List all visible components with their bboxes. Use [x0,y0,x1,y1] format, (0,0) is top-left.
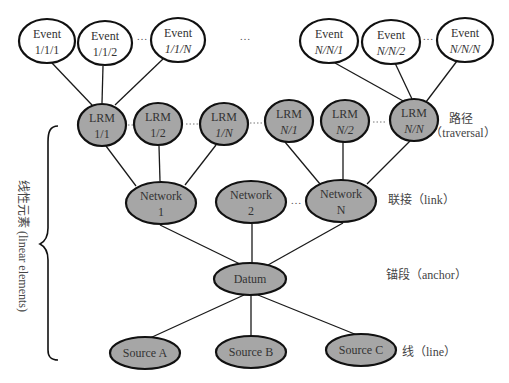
svg-text:N/2: N/2 [335,123,353,137]
svg-text:…: … [240,30,251,42]
svg-text:Datum: Datum [234,272,267,286]
svg-text:N/N/2: N/N/2 [376,44,406,58]
svg-text:LRM: LRM [89,111,115,125]
lrm-node-3: LRM 1/N [200,103,248,145]
svg-text:…: … [291,194,302,206]
source-node-c: Source C [326,334,396,366]
level-label-traversal-en: （traversal） [430,126,495,140]
level-label-traversal-cn: 路径 [449,111,473,126]
svg-text:1/1/1: 1/1/1 [35,43,60,57]
svg-text:Source A: Source A [123,346,168,360]
lrm-node-4: LRM N/1 [265,100,313,142]
svg-text:LRM: LRM [211,110,237,124]
svg-text:N/1: N/1 [279,123,297,137]
svg-text:LRM: LRM [276,107,302,121]
curly-brace [40,126,58,360]
lrm-node-2: LRM 1/2 [134,103,182,145]
svg-text:N/N: N/N [403,122,424,136]
svg-text:Event: Event [164,26,193,40]
svg-text:Event: Event [91,29,120,43]
svg-text:Source B: Source B [229,345,273,359]
svg-text:2: 2 [248,204,254,218]
svg-text:1/1: 1/1 [94,127,109,141]
svg-text:LRM: LRM [332,107,358,121]
svg-text:1/2: 1/2 [150,126,165,140]
lrm-node-1: LRM 1/1 [78,104,126,146]
svg-text:Network: Network [320,187,362,201]
svg-text:Network: Network [140,189,182,203]
datum-node: Datum [214,263,286,295]
svg-text:Event: Event [33,27,62,41]
level-label-link: 联接（link） [388,192,455,207]
svg-text:Source C: Source C [339,343,383,357]
event-node-3: Event 1/1/N [151,18,205,62]
source-node-a: Source A [110,337,180,369]
event-node-1: Event 1/1/1 [19,19,75,63]
diagram-canvas: … … … … Event 1/1/1 Event 1/1/2 Event 1/… [0,0,509,383]
event-node-2: Event 1/1/2 [78,21,132,65]
svg-text:N/N/1: N/N/1 [314,43,344,57]
brace-label: 线性元素 (linear elements) [16,180,30,312]
level-label-anchor: 锚段（anchor） [386,267,467,282]
svg-text:Event: Event [315,27,344,41]
svg-text:LRM: LRM [401,106,427,120]
level-label-line: 线（line） [402,345,456,359]
svg-text:…: … [137,30,148,42]
svg-text:Event: Event [377,28,406,42]
network-node-2: Network 2 [216,181,286,223]
lrm-node-5: LRM N/2 [321,100,369,142]
event-node-5: Event N/N/2 [362,20,420,64]
source-node-b: Source B [216,336,286,368]
event-node-6: Event N/N/N [437,18,493,62]
event-node-4: Event N/N/1 [300,19,358,63]
svg-text:N: N [337,203,346,217]
svg-text:1/1/2: 1/1/2 [93,45,118,59]
svg-text:…: … [423,30,434,42]
svg-text:Network: Network [230,188,272,202]
svg-text:1: 1 [158,205,164,219]
svg-text:1/N: 1/N [215,126,233,140]
network-node-1: Network 1 [126,182,196,224]
svg-text:Event: Event [451,26,480,40]
svg-text:1/1/N: 1/1/N [165,42,193,56]
network-node-3: Network N [306,180,376,222]
svg-text:LRM: LRM [145,110,171,124]
svg-text:N/N/N: N/N/N [449,42,482,56]
